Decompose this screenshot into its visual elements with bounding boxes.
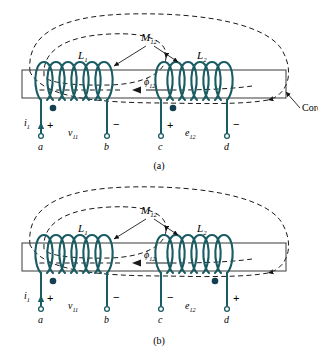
panel-b-stage: L1 L2 M12 ϕ12 i1 v11 e12 + − − + a b c d bbox=[0, 177, 318, 354]
voltage-label-e12: e12 bbox=[185, 301, 196, 313]
figure-panel-a: L1 L2 M12 ϕ12 i1 v11 e12 Core + − + − a … bbox=[0, 0, 318, 177]
polarity-b: − bbox=[113, 119, 119, 130]
core-label: Core bbox=[302, 103, 318, 113]
terminal-label-d: d bbox=[224, 315, 229, 325]
terminal-node-c bbox=[159, 307, 164, 312]
voltage-label-e12: e12 bbox=[185, 128, 196, 140]
terminal-label-d: d bbox=[224, 142, 229, 152]
terminal-label-a: a bbox=[38, 142, 43, 152]
panel-b-caption: (b) bbox=[0, 335, 318, 346]
terminal-label-c: c bbox=[158, 315, 162, 325]
dot-marker-l1 bbox=[50, 278, 57, 285]
coil-label-l1: L1 bbox=[78, 223, 88, 237]
dot-marker-l1 bbox=[50, 105, 57, 112]
terminal-label-b: b bbox=[104, 142, 109, 152]
polarity-d: − bbox=[233, 119, 239, 130]
coil-label-l1: L1 bbox=[78, 50, 88, 64]
terminal-node-d bbox=[225, 307, 230, 312]
polarity-c: − bbox=[167, 292, 173, 303]
polarity-d: + bbox=[233, 293, 239, 304]
figure-panel-b: L1 L2 M12 ϕ12 i1 v11 e12 + − − + a b c d… bbox=[0, 177, 318, 354]
current-arrow-i1 bbox=[38, 122, 44, 129]
core-callout-leader bbox=[286, 92, 300, 108]
mutual-inductance-label: M12 bbox=[141, 32, 157, 46]
polarity-b: − bbox=[113, 292, 119, 303]
coil-label-l2: L2 bbox=[197, 50, 207, 64]
current-arrow-i1 bbox=[38, 295, 44, 302]
terminal-label-c: c bbox=[158, 142, 162, 152]
flux-label-phi12: ϕ12 bbox=[144, 77, 155, 89]
voltage-label-v11: v11 bbox=[68, 128, 78, 140]
panel-a-stage: L1 L2 M12 ϕ12 i1 v11 e12 Core + − + − a … bbox=[0, 0, 318, 177]
terminal-node-b bbox=[105, 134, 110, 139]
polarity-a: + bbox=[47, 293, 53, 304]
terminal-node-a bbox=[39, 134, 44, 139]
terminal-node-c bbox=[159, 134, 164, 139]
dot-marker-l2 bbox=[170, 105, 177, 112]
current-label-i1: i1 bbox=[24, 118, 30, 130]
polarity-a: + bbox=[47, 120, 53, 131]
dot-marker-l2 bbox=[212, 278, 219, 285]
coil-label-l2: L2 bbox=[197, 223, 207, 237]
panel-a-caption: (a) bbox=[0, 160, 318, 171]
current-label-i1: i1 bbox=[24, 291, 30, 303]
panel-b-graphics bbox=[0, 177, 318, 354]
flux-label-phi12: ϕ12 bbox=[144, 250, 155, 262]
terminal-node-d bbox=[225, 134, 230, 139]
terminal-node-a bbox=[39, 307, 44, 312]
voltage-label-v11: v11 bbox=[68, 301, 78, 313]
terminal-node-b bbox=[105, 307, 110, 312]
mutual-inductance-label: M12 bbox=[141, 205, 157, 219]
terminal-label-b: b bbox=[104, 315, 109, 325]
polarity-c: + bbox=[167, 120, 173, 131]
terminal-label-a: a bbox=[38, 315, 43, 325]
